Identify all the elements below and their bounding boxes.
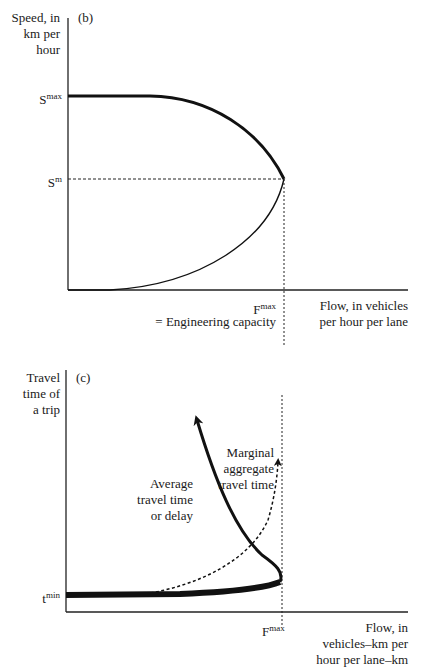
flow-b-line2: per hour per lane xyxy=(290,314,408,330)
sm-sup: m xyxy=(55,174,62,184)
speed-flow-lower-branch xyxy=(68,179,284,290)
avg-line2: travel time xyxy=(100,492,193,508)
panel-b-tag: (b) xyxy=(78,10,93,26)
fmax-sup-c: max xyxy=(269,623,285,633)
smax-symbol: S xyxy=(39,92,46,107)
marg-line3: travel time xyxy=(200,477,274,493)
tt-label-line2: time of xyxy=(0,386,60,402)
speed-label-line2: km per xyxy=(0,26,60,42)
engineering-capacity-label: = Engineering capacity xyxy=(130,314,276,330)
flow-c-line1: Flow, in xyxy=(290,620,408,636)
flow-c-line3: hour per lane–km xyxy=(290,652,408,668)
fmax-sup-b: max xyxy=(261,301,277,311)
speed-label-line1: Speed, in xyxy=(0,10,60,26)
average-travel-time-label: Average travel time or delay xyxy=(100,476,193,524)
speed-flow-upper-branch xyxy=(68,96,284,179)
smax-tick-label: Smax xyxy=(0,88,62,108)
panel-b-axes xyxy=(68,18,408,290)
tt-label-line3: a trip xyxy=(0,402,60,418)
diagram-canvas xyxy=(0,0,428,671)
travel-time-axis-label: Travel time of a trip xyxy=(0,370,60,418)
flow-axis-label-c: Flow, in vehicles–km per hour per lane–k… xyxy=(290,620,408,668)
speed-label-line3: hour xyxy=(0,42,60,58)
avg-line1: Average xyxy=(100,476,193,492)
tmin-tick-label: tmin xyxy=(0,587,60,607)
panel-c-tag: (c) xyxy=(76,370,90,386)
speed-axis-label: Speed, in km per hour xyxy=(0,10,60,58)
sm-symbol: S xyxy=(48,175,55,190)
fmax-tick-label-c: Fmax xyxy=(262,620,285,640)
marg-line1: Marginal xyxy=(200,445,274,461)
flow-c-line2: vehicles–km per xyxy=(290,636,408,652)
flow-axis-label-b: Flow, in vehicles per hour per lane xyxy=(290,298,408,330)
flow-b-line1: Flow, in vehicles xyxy=(290,298,408,314)
avg-line3: or delay xyxy=(100,508,193,524)
marginal-travel-time-label: Marginal aggregate travel time xyxy=(200,445,274,493)
marg-line2: aggregate xyxy=(200,461,274,477)
smax-sup: max xyxy=(47,91,63,101)
sm-tick-label: Sm xyxy=(0,171,62,191)
tt-label-line1: Travel xyxy=(0,370,60,386)
tmin-sup: min xyxy=(46,590,60,600)
